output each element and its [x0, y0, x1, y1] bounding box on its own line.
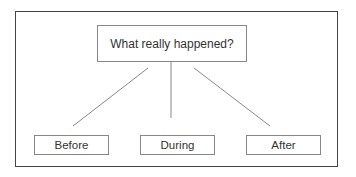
node-before-label: Before	[55, 139, 89, 151]
root-node-label: What really happened?	[110, 37, 233, 51]
node-before: Before	[34, 135, 109, 155]
connector-before	[73, 68, 148, 126]
connector-after	[194, 68, 270, 126]
node-during: During	[140, 135, 215, 155]
node-after-label: After	[271, 139, 295, 151]
root-node: What really happened?	[97, 25, 247, 62]
node-during-label: During	[161, 139, 195, 151]
node-after: After	[246, 135, 321, 155]
